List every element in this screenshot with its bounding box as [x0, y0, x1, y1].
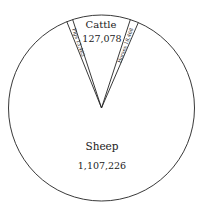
- cattle-value: 127,078: [82, 33, 121, 44]
- sheep-value: 1,107,226: [78, 160, 126, 171]
- cattle-label: Cattle: [86, 19, 117, 30]
- pie-chart: Cattle 127,078 Sheep 1,107,226 Pigs 13,4…: [0, 0, 203, 212]
- sheep-label: Sheep: [85, 140, 118, 152]
